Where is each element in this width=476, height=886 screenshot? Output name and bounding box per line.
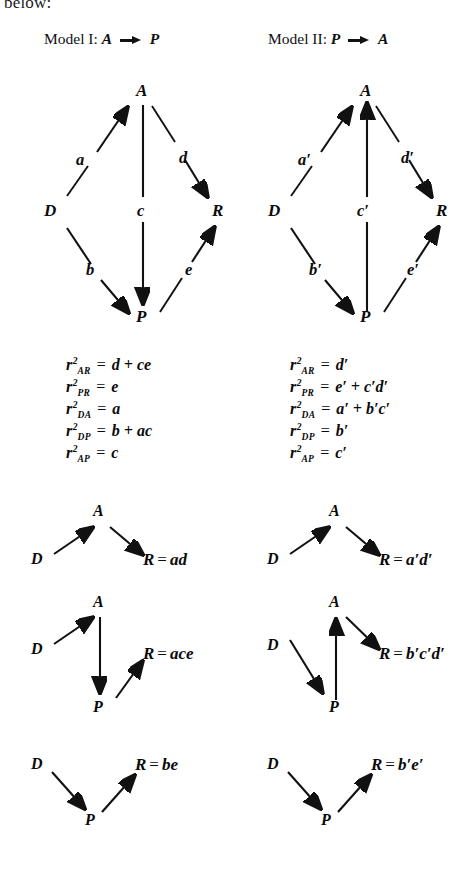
model-2-edge-label-b: b′ bbox=[309, 262, 322, 279]
model-1-edge-label-a: a bbox=[76, 152, 84, 169]
model-1-edge-label-b: b bbox=[86, 262, 94, 279]
equals-sign: = bbox=[390, 644, 406, 663]
path-2-2-value: b′c′d′ bbox=[406, 644, 445, 663]
model-2-title: Model II: P A bbox=[268, 30, 388, 48]
path-1-2-value: ace bbox=[170, 644, 194, 663]
eq-subscript: DP bbox=[77, 432, 90, 442]
model-2-node-R: R bbox=[436, 202, 447, 219]
path-1-2-result: R=ace bbox=[143, 645, 194, 662]
eq-symbol: r bbox=[66, 444, 73, 461]
model-2-equation-row: r2AP = c′ bbox=[290, 445, 390, 461]
model-2-equation-row: r2PR = e′ + c′d′ bbox=[290, 379, 390, 395]
eq-superscript: 2 bbox=[297, 400, 302, 410]
path-1-1-node-A: A bbox=[93, 503, 104, 519]
model-1-equation-row: r2DP = b + ac bbox=[66, 423, 152, 439]
model-1-node-A: A bbox=[136, 82, 147, 99]
eq-superscript: 2 bbox=[73, 422, 78, 432]
eq-symbol: r bbox=[290, 444, 297, 461]
path-1-2-node-A: A bbox=[93, 594, 104, 610]
model-1-node-R: R bbox=[212, 202, 223, 219]
eq-symbol: r bbox=[66, 422, 73, 439]
eq-superscript: 2 bbox=[73, 444, 78, 454]
equals-sign: = bbox=[154, 644, 170, 663]
eq-right-side: e′ + c′d′ bbox=[335, 378, 388, 395]
cut-off-caption-text: below: bbox=[4, 0, 51, 13]
path-2-3-value: b′e′ bbox=[398, 755, 424, 774]
model-2-node-P: P bbox=[360, 308, 370, 325]
model-1-edge-label-c: c bbox=[137, 203, 144, 220]
path-2-2-node-D: D bbox=[267, 637, 279, 653]
model-2-equation-row: r2DA = a′ + b′c′ bbox=[290, 401, 390, 417]
path-2-3-result: R=b′e′ bbox=[371, 756, 424, 773]
eq-right-side: d′ bbox=[336, 356, 349, 373]
eq-subscript: DP bbox=[301, 432, 314, 442]
model-1-equations: r2AR = d + ce r2PR = e r2DA = a r2DP = b… bbox=[66, 357, 152, 461]
eq-right-side: b + ac bbox=[112, 422, 152, 439]
equals-sign: = bbox=[319, 400, 332, 417]
eq-symbol: r bbox=[290, 378, 297, 395]
path-2-2-node-R: R bbox=[379, 644, 390, 663]
path-2-3-node-R: R bbox=[371, 755, 382, 774]
model-1-equation-row: r2PR = e bbox=[66, 379, 152, 395]
eq-right-side: c′ bbox=[335, 444, 347, 461]
figure-page: below: Model I: A P Model II: P A bbox=[0, 0, 476, 886]
path-2-3-node-D: D bbox=[267, 756, 279, 772]
model-2-equation-row: r2AR = d′ bbox=[290, 357, 390, 373]
eq-right-side: a′ + b′c′ bbox=[336, 400, 390, 417]
path-2-2-node-P: P bbox=[329, 699, 339, 715]
right-arrow-icon bbox=[120, 35, 142, 45]
model-1-title: Model I: A P bbox=[44, 30, 159, 48]
path-2-2-node-A: A bbox=[329, 594, 340, 610]
equals-sign: = bbox=[146, 755, 162, 774]
eq-superscript: 2 bbox=[297, 378, 302, 388]
eq-superscript: 2 bbox=[297, 422, 302, 432]
equals-sign: = bbox=[95, 400, 108, 417]
path-1-1-result: R=ad bbox=[143, 551, 187, 568]
eq-superscript: 2 bbox=[73, 356, 78, 366]
path-1-1-node-D: D bbox=[31, 551, 43, 567]
model-2-edge-label-d: d′ bbox=[401, 150, 414, 167]
eq-symbol: r bbox=[66, 400, 73, 417]
eq-subscript: PR bbox=[77, 388, 90, 398]
equals-sign: = bbox=[154, 550, 170, 569]
eq-superscript: 2 bbox=[297, 356, 302, 366]
equals-sign: = bbox=[318, 378, 331, 395]
eq-subscript: DA bbox=[77, 410, 91, 420]
eq-subscript: AR bbox=[77, 366, 90, 376]
path-1-3-node-R: R bbox=[135, 755, 146, 774]
model-2-title-to: A bbox=[378, 30, 388, 47]
path-2-1-value: a′d′ bbox=[406, 550, 433, 569]
equals-sign: = bbox=[94, 378, 107, 395]
equals-sign: = bbox=[319, 422, 332, 439]
eq-subscript: PR bbox=[301, 388, 314, 398]
eq-subscript: DA bbox=[301, 410, 315, 420]
model-1-equation-row: r2DA = a bbox=[66, 401, 152, 417]
eq-subscript: AP bbox=[77, 454, 90, 464]
model-1-title-to: P bbox=[150, 30, 159, 47]
model-2-title-prefix: Model II: bbox=[268, 30, 327, 47]
equals-sign: = bbox=[382, 755, 398, 774]
eq-right-side: a bbox=[112, 400, 120, 417]
model-1-title-prefix: Model I: bbox=[44, 30, 98, 47]
path-2-1-node-D: D bbox=[267, 551, 279, 567]
equals-sign: = bbox=[318, 444, 331, 461]
model-1-title-from: A bbox=[102, 30, 112, 47]
path-1-1-value: ad bbox=[170, 550, 187, 569]
equals-sign: = bbox=[95, 422, 108, 439]
path-1-3-result: R=be bbox=[135, 756, 178, 773]
path-1-1-node-R: R bbox=[143, 550, 154, 569]
model-2-edge-label-a: a′ bbox=[298, 152, 311, 169]
model-1-edge-label-e: e bbox=[185, 262, 192, 279]
eq-superscript: 2 bbox=[73, 378, 78, 388]
eq-right-side: b′ bbox=[336, 422, 349, 439]
path-2-1-result: R=a′d′ bbox=[379, 551, 433, 568]
model-2-edge-label-c: c′ bbox=[357, 203, 369, 220]
eq-superscript: 2 bbox=[73, 400, 78, 410]
model-1-edge-label-d: d bbox=[179, 150, 187, 167]
equals-sign: = bbox=[390, 550, 406, 569]
path-1-2-node-D: D bbox=[31, 641, 43, 657]
equals-sign: = bbox=[95, 356, 108, 373]
equals-sign: = bbox=[94, 444, 107, 461]
path-1-3-node-D: D bbox=[31, 756, 43, 772]
path-1-3-node-P: P bbox=[85, 812, 95, 828]
